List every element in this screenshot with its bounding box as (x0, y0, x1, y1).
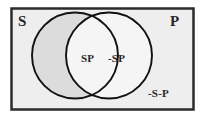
outside-region-label: -S-P (148, 88, 169, 99)
p-only-region-label: -SP (108, 53, 125, 64)
set-s-label: S (18, 14, 27, 29)
venn-diagram-figure: S P SP -SP -S-P (0, 0, 205, 117)
set-p-label: P (170, 14, 179, 29)
intersection-region-label: SP (81, 53, 94, 64)
